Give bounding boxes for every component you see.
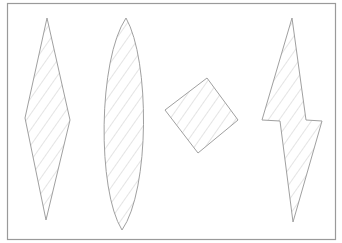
bolt-shape [262, 18, 322, 222]
diamond-shape [25, 18, 70, 220]
diagram-canvas [0, 0, 342, 243]
lens-shape [104, 18, 143, 230]
square-shape [165, 78, 238, 153]
